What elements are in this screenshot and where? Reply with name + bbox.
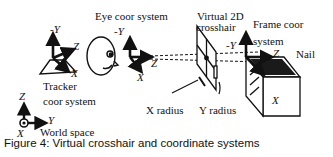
coordinate-systems-diagram: Eye coor system Virtual 2D crosshair Fra… (0, 0, 333, 157)
figure-caption: Figure 4: Virtual crosshair and coordina… (4, 137, 259, 149)
tracker-z-label: Z (73, 41, 79, 52)
eye-head-icon (87, 37, 118, 75)
frame-neg-y-label: -Y (226, 40, 236, 51)
frame-system-label: system (253, 36, 284, 47)
tracker-coor-system-label: coor system (43, 96, 96, 107)
frame-coor-label: Frame coor (253, 19, 303, 30)
eye-axes-icon (130, 40, 150, 70)
tracker-x-label: X (71, 68, 78, 79)
eye-z-label: Z (151, 58, 157, 69)
eye-coor-system-label: Eye coor system (95, 11, 168, 22)
frame-z-label: Z (273, 48, 279, 59)
world-x-out-icon (20, 119, 28, 127)
crosshair-plane-icon (197, 26, 217, 90)
eye-x-label: X (137, 72, 144, 83)
tracker-label: Tracker (43, 81, 77, 92)
x-radius-label: X radius (146, 105, 184, 116)
world-z-label: Z (19, 91, 25, 102)
nail-label: Nail (296, 49, 315, 60)
frame-x-label: X (272, 95, 279, 106)
world-y-label: Y (48, 115, 54, 126)
eye-neg-y-label: -Y (114, 26, 124, 37)
y-radius-label: Y radius (199, 105, 236, 116)
tracker-neg-y-label: -Y (50, 24, 60, 35)
crosshair-label: crosshair (196, 22, 236, 33)
